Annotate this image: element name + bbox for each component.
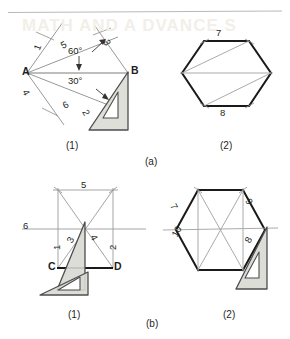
b2-set-square-body[interactable] [236, 227, 267, 289]
b1-step-number-2: 2 [108, 245, 118, 250]
a1-vertex-label-b: B [131, 65, 139, 76]
a1-tick-ray4 [42, 108, 58, 116]
b1-vertex-label-c: C [48, 261, 56, 272]
a1-vertex-label-a: A [22, 66, 30, 77]
a1-angle-30: 30° [68, 76, 82, 86]
a1-arrow-30-head [102, 93, 109, 100]
figure-root: MATH AND A DVANCE S [0, 0, 290, 339]
a2-step-number-8: 8 [220, 108, 225, 118]
caption-a1: (1) [66, 141, 78, 151]
b1-step-number-5: 5 [81, 180, 86, 190]
a2-step-number-7: 7 [216, 28, 221, 38]
header-rule [8, 11, 282, 13]
ghost-watermark-text: MATH AND A DVANCE S [22, 16, 237, 36]
caption-a2: (2) [220, 141, 232, 151]
a2-hexagon [182, 41, 271, 106]
a1-arrow-60b-head [76, 64, 82, 71]
caption-b1: (1) [68, 310, 80, 320]
a1-ray-4 [27, 73, 64, 125]
figure-a2-geometry [180, 39, 273, 108]
b1-step-number-1: 1 [52, 245, 62, 250]
caption-b-group: (b) [146, 319, 158, 329]
a1-set-square-body[interactable] [89, 72, 128, 130]
b1-step-number-6: 6 [23, 221, 28, 231]
caption-b2: (2) [223, 310, 235, 320]
caption-a-group: (a) [145, 157, 157, 167]
figure-b2-geometry [163, 187, 278, 289]
figure-b1-geometry [22, 187, 146, 295]
drawing-canvas [0, 0, 290, 339]
b1-vertex-label-d: D [114, 261, 122, 272]
a1-angle-60: 60° [68, 46, 82, 56]
